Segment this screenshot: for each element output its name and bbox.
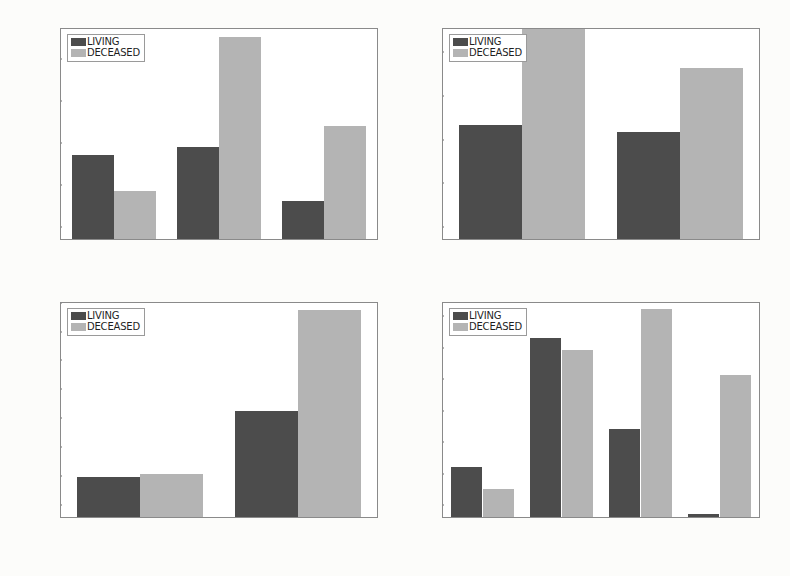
x-axis-tick-mark: [641, 517, 642, 518]
y-axis-tick-label: 60: [442, 310, 443, 322]
bar-living: [235, 411, 298, 517]
bar-deceased: [680, 68, 743, 239]
bar-living: [282, 201, 324, 239]
bar-deceased: [298, 310, 361, 517]
bar-living: [451, 467, 483, 517]
chart-panel-eln-risk: 020406080100FavorableIntermediateHighLIV…: [18, 16, 390, 288]
legend-swatch-deceased-icon: [453, 49, 468, 57]
legend-item: LIVING: [453, 311, 522, 322]
bar-deceased: [114, 191, 156, 239]
legend-swatch-deceased-icon: [71, 49, 86, 57]
legend-label: DECEASED: [469, 48, 522, 59]
bar-deceased: [140, 474, 203, 517]
y-axis-tick-label: 140: [60, 302, 61, 309]
x-axis-tick-mark: [522, 239, 523, 240]
y-axis-tick-label: 80: [442, 46, 443, 58]
y-axis-tick-label: 30: [442, 405, 443, 417]
plot-wrapper: 020406080100FavorableIntermediateHighLIV…: [60, 28, 378, 240]
y-axis-tick-label: 0: [442, 221, 443, 233]
plot-area: 020406080100120140OtherWhiteLIVINGDECEAS…: [60, 302, 378, 518]
chart-legend: LIVINGDECEASED: [449, 34, 527, 62]
legend-item: LIVING: [71, 37, 140, 48]
bar-living: [688, 514, 720, 517]
legend-swatch-deceased-icon: [453, 323, 468, 331]
x-axis-tick-mark: [219, 239, 220, 240]
bar-living: [72, 155, 114, 239]
plot-wrapper: 020406080MaleFemaleLIVINGDECEASEDGender: [442, 28, 760, 240]
y-axis-tick-label: 40: [60, 137, 61, 149]
x-axis-tick-mark: [680, 239, 681, 240]
x-axis-tick-mark: [114, 239, 115, 240]
legend-swatch-living-icon: [71, 312, 86, 320]
figure-canvas: 020406080100FavorableIntermediateHighLIV…: [0, 0, 790, 576]
legend-swatch-living-icon: [71, 38, 86, 46]
legend-item: DECEASED: [453, 322, 522, 333]
bar-living: [617, 132, 680, 239]
legend-swatch-deceased-icon: [71, 323, 86, 331]
y-axis-tick-label: 20: [442, 177, 443, 189]
y-axis-tick-label: 80: [60, 53, 61, 65]
bar-deceased: [483, 489, 515, 517]
y-axis-tick-label: 20: [60, 470, 61, 482]
y-axis-tick-label: 100: [60, 354, 61, 366]
plot-wrapper: 020406080100120140OtherWhiteLIVINGDECEAS…: [60, 302, 378, 518]
x-axis-tick-mark: [140, 517, 141, 518]
bar-deceased: [522, 29, 585, 239]
legend-label: LIVING: [87, 311, 119, 322]
y-axis-tick-label: 0: [442, 499, 443, 511]
chart-legend: LIVINGDECEASED: [67, 34, 145, 62]
y-axis-tick-label: 120: [60, 326, 61, 338]
legend-item: DECEASED: [71, 322, 140, 333]
plot-area: 0102030405060Target therapyHigh intensit…: [442, 302, 760, 518]
legend-item: DECEASED: [453, 48, 522, 59]
plot-area: 020406080100FavorableIntermediateHighLIV…: [60, 28, 378, 240]
y-axis-tick-label: 0: [60, 499, 61, 511]
bar-deceased: [219, 37, 261, 239]
chart-panel-race: 020406080100120140OtherWhiteLIVINGDECEAS…: [18, 290, 390, 566]
y-axis-tick-label: 0: [60, 221, 61, 233]
legend-label: DECEASED: [87, 322, 140, 333]
bar-living: [459, 125, 522, 239]
y-axis-tick-label: 20: [442, 436, 443, 448]
legend-label: DECEASED: [469, 322, 522, 333]
y-axis-tick-label: 60: [442, 90, 443, 102]
legend-label: LIVING: [87, 37, 119, 48]
bar-living: [77, 477, 140, 517]
plot-wrapper: 0102030405060Target therapyHigh intensit…: [442, 302, 760, 518]
chart-legend: LIVINGDECEASED: [67, 308, 145, 336]
y-axis-tick-label: 60: [60, 95, 61, 107]
chart-panel-treatment-intensity: 0102030405060Target therapyHigh intensit…: [400, 290, 772, 566]
legend-item: LIVING: [453, 37, 522, 48]
bar-living: [530, 338, 562, 517]
bar-deceased: [324, 126, 366, 239]
y-axis-tick-label: 80: [60, 383, 61, 395]
y-axis-tick-label: 40: [442, 134, 443, 146]
y-axis-tick-label: 20: [60, 179, 61, 191]
x-axis-tick-mark: [298, 517, 299, 518]
legend-label: DECEASED: [87, 48, 140, 59]
bar-living: [609, 429, 641, 517]
x-axis-tick-mark: [562, 517, 563, 518]
bar-deceased: [562, 350, 594, 517]
y-axis-tick-label: 40: [60, 441, 61, 453]
legend-swatch-living-icon: [453, 38, 468, 46]
x-axis-tick-mark: [483, 517, 484, 518]
bar-deceased: [720, 375, 752, 517]
y-axis-tick-label: 60: [60, 412, 61, 424]
x-axis-tick-mark: [720, 517, 721, 518]
legend-item: DECEASED: [71, 48, 140, 59]
y-axis-tick-label: 50: [442, 342, 443, 354]
bar-living: [177, 147, 219, 239]
legend-label: LIVING: [469, 37, 501, 48]
chart-panel-gender: 020406080MaleFemaleLIVINGDECEASEDGender: [400, 16, 772, 288]
legend-item: LIVING: [71, 311, 140, 322]
legend-label: LIVING: [469, 311, 501, 322]
plot-area: 020406080MaleFemaleLIVINGDECEASEDGender: [442, 28, 760, 240]
bar-deceased: [641, 309, 673, 517]
chart-legend: LIVINGDECEASED: [449, 308, 527, 336]
y-axis-tick-label: 40: [442, 373, 443, 385]
legend-swatch-living-icon: [453, 312, 468, 320]
y-axis-tick-label: 10: [442, 468, 443, 480]
x-axis-tick-mark: [324, 239, 325, 240]
